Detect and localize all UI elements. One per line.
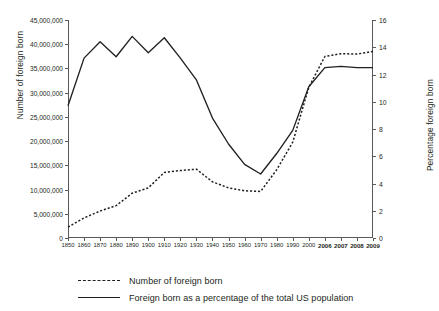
x-axis-tick	[325, 238, 326, 241]
x-axis-tick-label: 1960	[238, 242, 251, 248]
y-axis-right-tick-label: 4	[379, 180, 383, 187]
x-axis-tick-label: 1900	[142, 242, 155, 248]
x-axis-tick	[180, 238, 181, 241]
y-axis-right-tick-label: 2	[379, 207, 383, 214]
x-axis-tick-label: 2000	[302, 242, 315, 248]
y-axis-right-tick	[373, 211, 376, 212]
y-axis-right-tick-label: 6	[379, 153, 383, 160]
x-axis-tick	[212, 238, 213, 241]
x-axis-tick	[164, 238, 165, 241]
y-axis-right-tick	[373, 102, 376, 103]
x-axis-tick	[116, 238, 117, 241]
legend-swatch-solid-icon	[78, 293, 120, 303]
x-axis-tick	[245, 238, 246, 241]
x-axis-tick	[293, 238, 294, 241]
legend-item-percentage-foreign-born: Foreign born as a percentage of the tota…	[78, 289, 408, 306]
y-axis-right-tick	[373, 184, 376, 185]
x-axis-tick-label: 1970	[254, 242, 267, 248]
y-axis-left-tick-label: 30,000,000	[30, 89, 63, 96]
y-axis-left-tick-label: 45,000,000	[30, 17, 63, 24]
y-axis-left-tick-label: 10,000,000	[30, 186, 63, 193]
x-axis-tick-label: 1980	[270, 242, 283, 248]
x-axis-tick-label: 1870	[94, 242, 107, 248]
chart-legend: Number of foreign born Foreign born as a…	[78, 272, 408, 306]
legend-label-percentage-foreign-born: Foreign born as a percentage of the tota…	[129, 293, 353, 303]
y-axis-left-tick-label: 15,000,000	[30, 162, 63, 169]
y-axis-right-tick-label: 16	[379, 17, 387, 24]
x-axis-tick	[341, 238, 342, 241]
plot-area: 05,000,00010,000,00015,000,00020,000,000…	[68, 20, 373, 238]
x-axis-tick	[68, 238, 69, 241]
x-axis-tick-label: 2009	[366, 242, 380, 249]
x-axis-tick	[100, 238, 101, 241]
x-axis-tick	[309, 238, 310, 241]
series-line-percentage-foreign-born	[68, 36, 373, 174]
x-axis-tick	[357, 238, 358, 241]
series-lines	[68, 20, 373, 238]
x-axis-tick-label: 1890	[126, 242, 139, 248]
x-axis-tick	[261, 238, 262, 241]
x-axis-tick-label: 1990	[286, 242, 299, 248]
legend-item-number-of-foreign-born: Number of foreign born	[78, 272, 408, 289]
x-axis-tick-label: 1940	[206, 242, 219, 248]
legend-swatch-dotted-icon	[78, 276, 120, 286]
x-axis-tick-label: 1950	[222, 242, 235, 248]
y-axis-left-tick-label: 20,000,000	[30, 138, 63, 145]
y-axis-right-tick	[373, 75, 376, 76]
x-axis-tick	[148, 238, 149, 241]
y-axis-right-tick	[373, 129, 376, 130]
legend-label-number-of-foreign-born: Number of foreign born	[129, 276, 223, 286]
y-axis-right-tick	[373, 47, 376, 48]
x-axis-tick-label: 2007	[334, 242, 348, 249]
y-axis-left-tick-label: 40,000,000	[30, 41, 63, 48]
y-axis-left-title: Number of foreign born	[15, 0, 29, 155]
y-axis-left-tick-label: 0	[59, 235, 63, 242]
x-axis-tick	[277, 238, 278, 241]
x-axis-tick	[132, 238, 133, 241]
y-axis-right-tick-label: 8	[379, 126, 383, 133]
x-axis-tick	[229, 238, 230, 241]
y-axis-right-tick-label: 0	[379, 235, 383, 242]
x-axis-tick-label: 2008	[350, 242, 364, 249]
y-axis-left-tick-label: 25,000,000	[30, 113, 63, 120]
x-axis-tick-label: 2006	[318, 242, 332, 249]
y-axis-right-tick-label: 10	[379, 98, 387, 105]
series-line-number-of-foreign-born	[68, 51, 373, 227]
x-axis-tick-label: 1850	[61, 242, 74, 248]
x-axis-tick	[373, 238, 374, 241]
x-axis-tick	[84, 238, 85, 241]
x-axis-tick-label: 1860	[77, 242, 90, 248]
x-axis-tick-label: 1910	[158, 242, 171, 248]
y-axis-left-tick-label: 35,000,000	[30, 65, 63, 72]
y-axis-right-title: Percentage foreign born	[425, 40, 439, 210]
x-axis-tick-label: 1880	[110, 242, 123, 248]
y-axis-left-tick-label: 5,000,000	[34, 210, 63, 217]
x-axis-tick-label: 1930	[190, 242, 203, 248]
y-axis-right-tick	[373, 156, 376, 157]
y-axis-right-tick	[373, 20, 376, 21]
x-axis-tick-label: 1920	[174, 242, 187, 248]
x-axis-tick	[196, 238, 197, 241]
y-axis-right-tick-label: 14	[379, 44, 387, 51]
y-axis-right-tick-label: 12	[379, 71, 387, 78]
